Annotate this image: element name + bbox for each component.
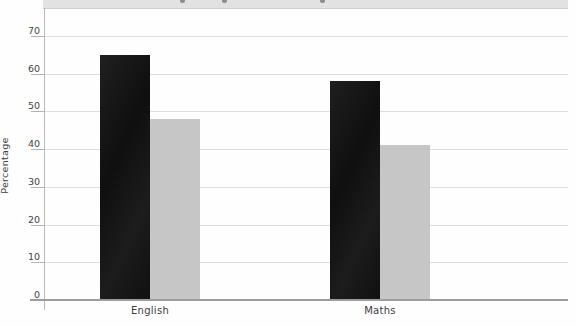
y-tick-label-40: 40 bbox=[0, 138, 40, 150]
category-label-english: English bbox=[90, 305, 210, 316]
chart-title-band bbox=[43, 0, 568, 9]
bar-english-grey bbox=[150, 119, 200, 300]
y-axis-line bbox=[44, 8, 45, 310]
y-tick-label-30: 30 bbox=[0, 176, 40, 188]
bar-chart-figure: Percentage 010203040506070EnglishMaths bbox=[0, 0, 577, 326]
cropped-title-text-remnant bbox=[320, 0, 325, 3]
category-label-maths: Maths bbox=[320, 305, 440, 316]
cropped-title-text-remnant bbox=[180, 0, 185, 3]
y-tick-label-10: 10 bbox=[0, 251, 40, 263]
y-tick-label-50: 50 bbox=[0, 100, 40, 112]
cropped-title-text-remnant bbox=[222, 0, 227, 3]
gridline-y70 bbox=[44, 36, 568, 37]
y-tick-label-70: 70 bbox=[0, 25, 40, 37]
y-tick-label-20: 20 bbox=[0, 214, 40, 226]
x-axis-line bbox=[30, 299, 568, 301]
y-tick-label-60: 60 bbox=[0, 63, 40, 75]
bar-maths-black bbox=[330, 81, 380, 300]
bar-english-black bbox=[100, 55, 150, 300]
bar-maths-grey bbox=[380, 145, 430, 300]
